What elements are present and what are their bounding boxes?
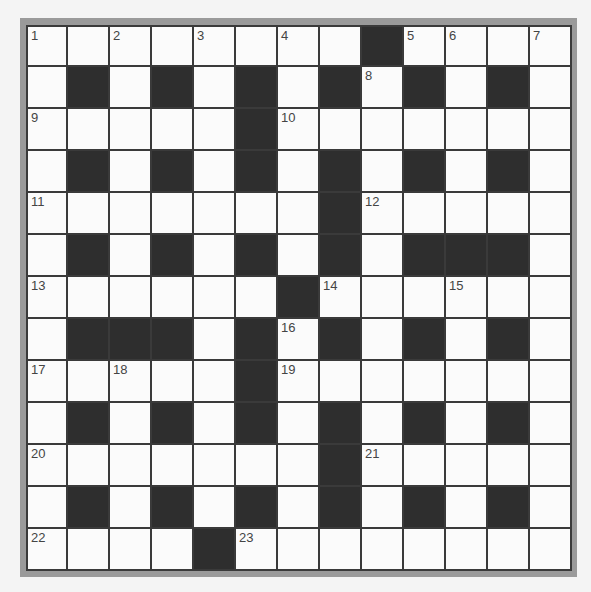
grid-cell[interactable]: 11 (26, 193, 68, 235)
grid-cell[interactable] (194, 445, 236, 487)
grid-cell[interactable] (110, 445, 152, 487)
grid-cell[interactable]: 1 (26, 25, 68, 67)
grid-cell[interactable] (110, 403, 152, 445)
grid-cell[interactable] (236, 445, 278, 487)
grid-cell[interactable] (446, 487, 488, 529)
grid-cell[interactable] (446, 193, 488, 235)
grid-cell[interactable]: 13 (26, 277, 68, 319)
grid-cell[interactable]: 16 (278, 319, 320, 361)
grid-cell[interactable] (446, 67, 488, 109)
grid-cell[interactable]: 23 (236, 529, 278, 571)
grid-cell[interactable] (530, 403, 572, 445)
grid-cell[interactable] (194, 361, 236, 403)
grid-cell[interactable] (278, 235, 320, 277)
grid-cell[interactable] (446, 445, 488, 487)
grid-cell[interactable] (110, 235, 152, 277)
grid-cell[interactable] (110, 151, 152, 193)
grid-cell[interactable] (404, 277, 446, 319)
grid-cell[interactable] (152, 529, 194, 571)
grid-cell[interactable] (362, 277, 404, 319)
grid-cell[interactable] (152, 277, 194, 319)
grid-cell[interactable] (404, 529, 446, 571)
grid-cell[interactable] (404, 109, 446, 151)
grid-cell[interactable] (488, 529, 530, 571)
grid-cell[interactable] (194, 67, 236, 109)
grid-cell[interactable] (488, 277, 530, 319)
grid-cell[interactable] (278, 193, 320, 235)
grid-cell[interactable] (152, 25, 194, 67)
grid-cell[interactable] (488, 25, 530, 67)
grid-cell[interactable] (110, 67, 152, 109)
grid-cell[interactable] (362, 151, 404, 193)
grid-cell[interactable] (26, 403, 68, 445)
grid-cell[interactable] (362, 487, 404, 529)
grid-cell[interactable] (320, 529, 362, 571)
grid-cell[interactable] (320, 25, 362, 67)
grid-cell[interactable]: 22 (26, 529, 68, 571)
grid-cell[interactable] (236, 193, 278, 235)
grid-cell[interactable]: 15 (446, 277, 488, 319)
grid-cell[interactable] (194, 193, 236, 235)
grid-cell[interactable] (26, 151, 68, 193)
grid-cell[interactable] (194, 109, 236, 151)
grid-cell[interactable] (362, 319, 404, 361)
grid-cell[interactable] (194, 277, 236, 319)
grid-cell[interactable]: 7 (530, 25, 572, 67)
grid-cell[interactable] (26, 235, 68, 277)
grid-cell[interactable]: 21 (362, 445, 404, 487)
grid-cell[interactable] (446, 319, 488, 361)
grid-cell[interactable]: 9 (26, 109, 68, 151)
grid-cell[interactable] (194, 151, 236, 193)
grid-cell[interactable] (488, 109, 530, 151)
grid-cell[interactable] (530, 235, 572, 277)
grid-cell[interactable] (68, 361, 110, 403)
grid-cell[interactable] (320, 109, 362, 151)
grid-cell[interactable] (68, 25, 110, 67)
grid-cell[interactable] (26, 67, 68, 109)
grid-cell[interactable] (530, 151, 572, 193)
grid-cell[interactable] (362, 235, 404, 277)
grid-cell[interactable] (68, 529, 110, 571)
grid-cell[interactable] (488, 193, 530, 235)
grid-cell[interactable] (110, 487, 152, 529)
grid-cell[interactable] (68, 193, 110, 235)
grid-cell[interactable] (236, 277, 278, 319)
grid-cell[interactable] (278, 403, 320, 445)
grid-cell[interactable] (152, 361, 194, 403)
grid-cell[interactable] (68, 277, 110, 319)
grid-cell[interactable] (404, 193, 446, 235)
grid-cell[interactable] (110, 109, 152, 151)
grid-cell[interactable] (404, 361, 446, 403)
grid-cell[interactable]: 18 (110, 361, 152, 403)
grid-cell[interactable] (278, 151, 320, 193)
grid-cell[interactable] (236, 25, 278, 67)
grid-cell[interactable] (446, 151, 488, 193)
grid-cell[interactable] (530, 487, 572, 529)
grid-cell[interactable]: 5 (404, 25, 446, 67)
grid-cell[interactable] (278, 487, 320, 529)
grid-cell[interactable] (530, 361, 572, 403)
grid-cell[interactable] (278, 529, 320, 571)
grid-cell[interactable] (194, 319, 236, 361)
grid-cell[interactable] (488, 361, 530, 403)
grid-cell[interactable] (194, 403, 236, 445)
grid-cell[interactable] (404, 445, 446, 487)
grid-cell[interactable] (446, 109, 488, 151)
grid-cell[interactable] (110, 193, 152, 235)
grid-cell[interactable]: 6 (446, 25, 488, 67)
grid-cell[interactable] (152, 109, 194, 151)
grid-cell[interactable] (194, 487, 236, 529)
grid-cell[interactable] (194, 235, 236, 277)
grid-cell[interactable] (530, 109, 572, 151)
grid-cell[interactable] (530, 277, 572, 319)
grid-cell[interactable] (446, 529, 488, 571)
grid-cell[interactable]: 17 (26, 361, 68, 403)
grid-cell[interactable] (26, 487, 68, 529)
grid-cell[interactable] (68, 445, 110, 487)
grid-cell[interactable] (362, 403, 404, 445)
grid-cell[interactable] (26, 319, 68, 361)
grid-cell[interactable] (530, 193, 572, 235)
grid-cell[interactable] (530, 67, 572, 109)
grid-cell[interactable] (446, 361, 488, 403)
grid-cell[interactable]: 2 (110, 25, 152, 67)
